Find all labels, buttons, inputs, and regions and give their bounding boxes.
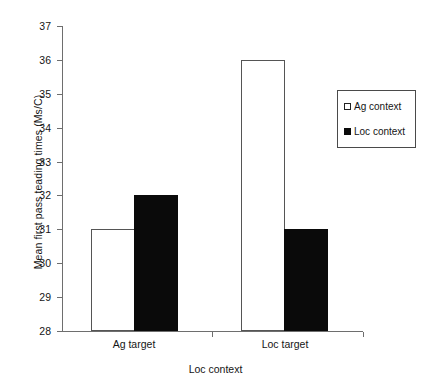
bar-ag-target-ag-context bbox=[91, 229, 135, 331]
y-tick-label-28: 28 bbox=[29, 326, 51, 336]
y-tick-label-37: 37 bbox=[29, 21, 51, 31]
y-tick-mark-29 bbox=[57, 297, 62, 298]
y-tick-label-31: 31 bbox=[29, 224, 51, 234]
hollow-square-marker-icon bbox=[344, 103, 351, 110]
y-tick-label-35: 35 bbox=[29, 89, 51, 99]
y-tick-label-32: 32 bbox=[29, 190, 51, 200]
legend-item-ag-context: Ag context bbox=[344, 101, 401, 112]
y-tick-label-34: 34 bbox=[29, 123, 51, 133]
y-axis-line bbox=[62, 26, 63, 332]
y-tick-label-30: 30 bbox=[29, 258, 51, 268]
x-axis-end-tick bbox=[363, 332, 364, 337]
bar-loc-target-loc-context bbox=[284, 229, 328, 331]
y-tick-mark-33 bbox=[57, 162, 62, 163]
x-axis-category-separator-tick bbox=[212, 332, 213, 337]
y-tick-mark-31 bbox=[57, 229, 62, 230]
y-tick-label-29: 29 bbox=[29, 292, 51, 302]
bar-ag-target-loc-context bbox=[134, 195, 178, 331]
y-tick-mark-32 bbox=[57, 195, 62, 196]
y-tick-label-33: 33 bbox=[29, 157, 51, 167]
legend-label-0: Ag context bbox=[354, 101, 401, 112]
bar-loc-target-ag-context bbox=[241, 60, 285, 331]
x-axis-title: Loc context bbox=[0, 363, 431, 375]
x-axis-category-label-0: Ag target bbox=[74, 338, 194, 350]
y-tick-mark-35 bbox=[57, 94, 62, 95]
legend-box: Ag context Loc context bbox=[337, 90, 416, 148]
y-tick-mark-30 bbox=[57, 263, 62, 264]
y-tick-label-36: 36 bbox=[29, 55, 51, 65]
legend-label-1: Loc context bbox=[354, 126, 405, 137]
y-tick-mark-37 bbox=[57, 26, 62, 27]
x-axis-category-label-1: Loc target bbox=[225, 338, 345, 350]
y-tick-mark-36 bbox=[57, 60, 62, 61]
y-tick-mark-34 bbox=[57, 128, 62, 129]
bar-chart: Mean first pass teading times (Ms/C) 282… bbox=[0, 0, 431, 390]
legend-item-loc-context: Loc context bbox=[344, 126, 405, 137]
filled-square-marker-icon bbox=[344, 128, 351, 135]
